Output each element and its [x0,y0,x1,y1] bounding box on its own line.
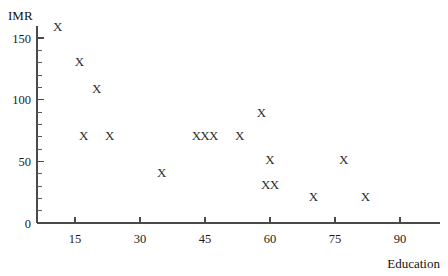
data-point-marker: X [339,152,349,167]
x-tick-label: 60 [264,232,277,246]
data-point-marker: X [53,19,63,34]
y-axis: 050100150 [12,26,44,231]
x-tick-label: 15 [69,232,82,246]
y-tick-label: 100 [12,93,31,107]
data-point-marker: X [75,54,85,69]
y-tick-label: 50 [19,155,32,169]
data-point-marker: X [257,105,267,120]
data-point-marker: X [361,189,371,204]
scatter-plot-figure: 050100150 153045607590 IMR Education XXX… [0,0,448,276]
x-tick-label: 45 [199,232,212,246]
y-axis-tick-labels: 050100150 [12,32,31,231]
y-tick-label: 150 [12,32,31,46]
data-point-marker: X [265,152,275,167]
x-axis-title: Education [387,256,440,271]
data-point-marker: X [92,81,102,96]
y-axis-title: IMR [8,8,33,23]
x-axis-ticks [75,217,400,223]
plot-canvas: 050100150 153045607590 IMR Education XXX… [0,0,448,276]
data-point-group: XXXXXXXXXXXXXXXXX [53,19,371,204]
data-point-marker: X [235,128,245,143]
data-point-marker: X [105,128,115,143]
x-tick-label: 75 [329,232,342,246]
x-tick-label: 90 [394,232,407,246]
data-point-marker: X [79,128,89,143]
y-axis-ticks [37,38,44,223]
x-axis: 153045607590 [37,217,440,246]
data-point-marker: X [309,189,319,204]
data-point-marker: X [209,128,219,143]
x-tick-label: 30 [134,232,147,246]
data-point-marker: X [270,177,280,192]
y-tick-label: 0 [25,217,31,231]
x-axis-tick-labels: 153045607590 [69,232,407,246]
data-point-marker: X [157,165,167,180]
